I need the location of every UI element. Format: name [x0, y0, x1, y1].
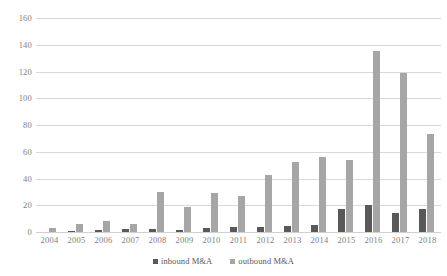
- x-axis-tick-label: 2009: [171, 234, 198, 246]
- bar-group: [117, 18, 144, 232]
- bar-group: [414, 18, 441, 232]
- bar-inbound: [338, 209, 345, 232]
- bar-outbound: [157, 192, 164, 232]
- bar-inbound: [122, 229, 129, 232]
- x-axis-tick-label: 2011: [225, 234, 252, 246]
- bar-group: [144, 18, 171, 232]
- bar-outbound: [319, 157, 326, 232]
- y-axis-tick-label: 160: [0, 14, 32, 23]
- x-axis-tick-label: 2005: [63, 234, 90, 246]
- y-axis-tick-label: 60: [0, 147, 32, 156]
- gridline: [36, 232, 441, 233]
- bar-group: [333, 18, 360, 232]
- bar-chart: 020406080100120140160 200420052006200720…: [0, 0, 447, 276]
- bar-inbound: [419, 209, 426, 232]
- bar-outbound: [346, 160, 353, 232]
- bar-inbound: [230, 227, 237, 232]
- bar-group: [252, 18, 279, 232]
- bar-group: [171, 18, 198, 232]
- x-axis-labels: 2004200520062007200820092010201120122013…: [36, 234, 441, 248]
- x-axis-tick-label: 2013: [279, 234, 306, 246]
- bar-outbound: [400, 73, 407, 232]
- bar-inbound: [311, 225, 318, 232]
- legend-swatch-icon: [153, 259, 158, 264]
- bar-inbound: [365, 205, 372, 232]
- bar-inbound: [257, 227, 264, 232]
- x-axis-tick-label: 2014: [306, 234, 333, 246]
- bar-outbound: [265, 175, 272, 233]
- bar-inbound: [203, 228, 210, 232]
- bar-inbound: [68, 231, 75, 232]
- bar-outbound: [49, 228, 56, 232]
- x-axis-tick-label: 2006: [90, 234, 117, 246]
- legend-label: outbound M&A: [238, 256, 294, 266]
- x-axis-tick-label: 2012: [252, 234, 279, 246]
- bar-outbound: [211, 193, 218, 232]
- legend-item-inbound: inbound M&A: [153, 256, 212, 266]
- bar-inbound: [95, 230, 102, 232]
- bar-outbound: [184, 207, 191, 232]
- y-axis-tick-label: 20: [0, 201, 32, 210]
- legend-swatch-icon: [230, 259, 235, 264]
- bar-outbound: [103, 221, 110, 232]
- y-axis-tick-label: 80: [0, 121, 32, 130]
- y-axis-tick-label: 140: [0, 40, 32, 49]
- x-axis-tick-label: 2008: [144, 234, 171, 246]
- bar-outbound: [373, 51, 380, 232]
- bar-group: [36, 18, 63, 232]
- bar-outbound: [427, 134, 434, 232]
- bar-group: [279, 18, 306, 232]
- legend-item-outbound: outbound M&A: [230, 256, 294, 266]
- bar-groups: [36, 18, 441, 232]
- bar-outbound: [292, 162, 299, 232]
- bar-inbound: [284, 226, 291, 232]
- chart-legend: inbound M&A outbound M&A: [0, 256, 447, 266]
- bar-outbound: [238, 196, 245, 232]
- x-axis-tick-label: 2015: [333, 234, 360, 246]
- plot-area: [36, 18, 441, 232]
- bar-group: [198, 18, 225, 232]
- y-axis-tick-label: 0: [0, 228, 32, 237]
- x-axis-tick-label: 2017: [387, 234, 414, 246]
- bar-inbound: [392, 213, 399, 232]
- bar-outbound: [76, 224, 83, 232]
- bar-group: [90, 18, 117, 232]
- x-axis-tick-label: 2004: [36, 234, 63, 246]
- y-axis-tick-label: 100: [0, 94, 32, 103]
- bar-group: [63, 18, 90, 232]
- bar-inbound: [149, 229, 156, 232]
- bar-group: [306, 18, 333, 232]
- bar-inbound: [176, 230, 183, 232]
- x-axis-tick-label: 2007: [117, 234, 144, 246]
- y-axis-tick-label: 120: [0, 67, 32, 76]
- bar-group: [225, 18, 252, 232]
- y-axis-tick-label: 40: [0, 174, 32, 183]
- bar-group: [387, 18, 414, 232]
- bar-outbound: [130, 224, 137, 232]
- legend-label: inbound M&A: [161, 256, 212, 266]
- x-axis-tick-label: 2018: [414, 234, 441, 246]
- x-axis-tick-label: 2010: [198, 234, 225, 246]
- x-axis-tick-label: 2016: [360, 234, 387, 246]
- y-axis-labels: 020406080100120140160: [0, 18, 32, 232]
- bar-group: [360, 18, 387, 232]
